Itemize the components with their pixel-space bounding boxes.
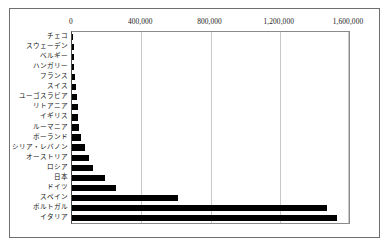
- bar[interactable]: [72, 185, 116, 191]
- bar[interactable]: [72, 124, 79, 130]
- bar[interactable]: [72, 74, 75, 80]
- category-axis-labels: チェコスウェーデンベルギーハンガリーフランススイスユーゴスラビアリトアニアイギリ…: [0, 31, 68, 222]
- bar[interactable]: [72, 205, 327, 211]
- bar[interactable]: [72, 155, 89, 161]
- chart-figure: 0400,000800,0001,200,0001,600,000 チェコスウェ…: [0, 0, 389, 247]
- bar-row[interactable]: [72, 62, 349, 72]
- category-label: オーストリア: [26, 153, 68, 160]
- bar[interactable]: [72, 134, 81, 140]
- category-label: スウェーデン: [26, 43, 68, 50]
- category-label: フランス: [40, 73, 68, 80]
- category-label: リトアニア: [33, 103, 68, 110]
- category-label: ロシア: [47, 163, 68, 170]
- category-label: ポルトガル: [33, 204, 68, 211]
- category-label: 日本: [54, 173, 68, 180]
- bar[interactable]: [72, 54, 74, 60]
- bar-row[interactable]: [72, 112, 349, 122]
- category-label: チェコ: [47, 33, 68, 40]
- category-label: スペイン: [40, 194, 68, 201]
- bar-row[interactable]: [72, 42, 349, 52]
- bar-row[interactable]: [72, 213, 349, 223]
- bar[interactable]: [72, 34, 73, 40]
- bar-row[interactable]: [72, 52, 349, 62]
- category-label: ルーマニア: [33, 123, 68, 130]
- category-label: イタリア: [40, 214, 68, 221]
- category-label: ベルギー: [40, 53, 68, 60]
- bar[interactable]: [72, 195, 178, 201]
- bar[interactable]: [72, 94, 77, 100]
- bar-row[interactable]: [72, 32, 349, 42]
- bar-row[interactable]: [72, 153, 349, 163]
- plot-area: [71, 31, 350, 224]
- x-axis-tick-label: 400,000: [128, 17, 153, 26]
- bar[interactable]: [72, 114, 78, 120]
- x-axis-tick-labels: 0400,000800,0001,200,0001,600,000: [0, 17, 389, 29]
- bar[interactable]: [72, 104, 78, 110]
- category-label: イギリス: [40, 113, 68, 120]
- bar-row[interactable]: [72, 193, 349, 203]
- bar[interactable]: [72, 64, 74, 70]
- bar-row[interactable]: [72, 183, 349, 193]
- x-axis-tick-label: 0: [69, 17, 73, 26]
- category-label: ハンガリー: [33, 63, 68, 70]
- category-label: シリア・レバノン: [12, 143, 68, 150]
- bar[interactable]: [72, 84, 76, 90]
- category-label: スイス: [47, 83, 68, 90]
- x-axis-tick-label: 1,600,000: [333, 17, 363, 26]
- bar-row[interactable]: [72, 203, 349, 213]
- bar-row[interactable]: [72, 143, 349, 153]
- category-label: ドイツ: [47, 184, 68, 191]
- bar-row[interactable]: [72, 72, 349, 82]
- category-label: ポーランド: [33, 133, 68, 140]
- bar[interactable]: [72, 215, 337, 221]
- bar-row[interactable]: [72, 133, 349, 143]
- bar[interactable]: [72, 44, 74, 50]
- bar-row[interactable]: [72, 163, 349, 173]
- bar-row[interactable]: [72, 173, 349, 183]
- category-label: ユーゴスラビア: [19, 93, 68, 100]
- bar-series: [72, 32, 349, 223]
- bar-row[interactable]: [72, 122, 349, 132]
- bar[interactable]: [72, 175, 105, 181]
- x-axis-tick-label: 1,200,000: [264, 17, 294, 26]
- bar[interactable]: [72, 165, 93, 171]
- bar-row[interactable]: [72, 92, 349, 102]
- x-axis-tick-label: 800,000: [197, 17, 222, 26]
- bar-row[interactable]: [72, 102, 349, 112]
- bar[interactable]: [72, 144, 85, 150]
- bar-row[interactable]: [72, 82, 349, 92]
